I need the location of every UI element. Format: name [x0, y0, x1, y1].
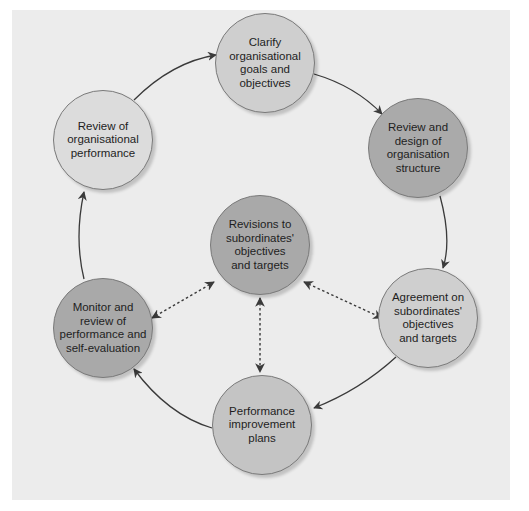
node-label: Revisions to subordinates' objectives an… — [222, 218, 298, 272]
node-label: Review and design of organisation struct… — [383, 121, 454, 175]
arrow-agreement-to-performance-plans — [314, 357, 396, 408]
arrow-clarify-to-review-design — [314, 74, 382, 114]
arrow-monitor-to-review-org — [79, 192, 84, 279]
arrow-performance-plans-to-monitor — [134, 369, 212, 428]
node-label: Clarify organisational goals and objecti… — [225, 36, 305, 90]
dashed-arrow-revisions-agreement — [304, 282, 382, 318]
arrow-review-org-to-clarify — [134, 55, 216, 100]
node-review-org-performance: Review of organisational performance — [53, 90, 153, 190]
dashed-arrow-revisions-monitor — [152, 282, 214, 318]
node-performance-improvement-plans: Performance improvement plans — [212, 375, 312, 475]
node-monitor-review: Monitor and review of performance and se… — [53, 278, 153, 378]
node-clarify-goals: Clarify organisational goals and objecti… — [215, 13, 315, 113]
arrow-review-design-to-agreement — [440, 196, 447, 268]
node-revisions-objectives: Revisions to subordinates' objectives an… — [210, 195, 310, 295]
node-label: Agreement on subordinates' objectives an… — [388, 291, 468, 345]
node-label: Performance improvement plans — [225, 405, 299, 446]
node-review-design-structure: Review and design of organisation struct… — [368, 98, 468, 198]
node-label: Monitor and review of performance and se… — [56, 301, 151, 355]
node-agreement-objectives: Agreement on subordinates' objectives an… — [378, 268, 478, 368]
node-label: Review of organisational performance — [63, 120, 143, 161]
